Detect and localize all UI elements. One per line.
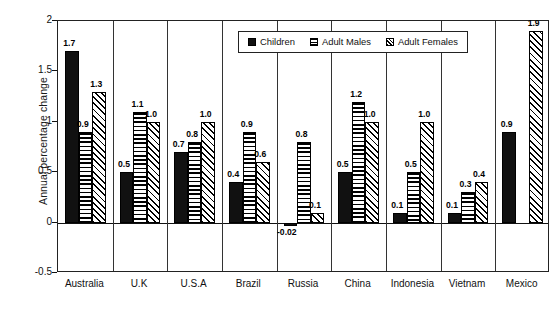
category-divider [386, 21, 387, 271]
y-axis-tick-mark [52, 20, 57, 21]
bar-children [284, 223, 298, 227]
y-axis-tick-label: 0.5 [26, 166, 52, 176]
bar-females [92, 92, 106, 223]
bar-females [475, 182, 489, 222]
bar-males [407, 172, 421, 222]
bar-children [120, 172, 134, 222]
bar-value-label: 0.5 [118, 160, 130, 169]
x-axis-category-label: China [330, 278, 385, 289]
category-divider [495, 21, 496, 271]
zero-baseline [58, 223, 548, 224]
category-divider [441, 21, 442, 271]
bar-males [133, 112, 147, 223]
y-axis-tick-mark [52, 121, 57, 122]
bar-males [243, 132, 257, 223]
bar-value-label: 0.5 [337, 160, 349, 169]
x-axis-category-label: U.S.A [166, 278, 221, 289]
bar-females [365, 122, 379, 223]
bar-value-label: 0.9 [241, 120, 253, 129]
legend-label-adult-females: Adult Females [398, 36, 458, 47]
bar-females [147, 122, 161, 223]
bar-value-label: 0.9 [77, 120, 89, 129]
bar-chart: Annual percentage change 21.510.50-0.5 C… [0, 0, 557, 313]
y-axis-tick-label: 1 [26, 116, 52, 126]
bar-value-label: 1.2 [350, 90, 362, 99]
plot-area [57, 20, 549, 272]
bar-value-label: 1.9 [528, 19, 540, 28]
legend-swatch-children-icon [248, 38, 256, 46]
bar-value-label: 0.1 [446, 201, 458, 210]
y-axis-tick-label: 2 [26, 15, 52, 25]
bar-value-label: -0.02 [277, 228, 297, 237]
bar-females [529, 31, 543, 223]
y-axis-tick-labels: 21.510.50-0.5 [22, 0, 52, 313]
bar-value-label: 0.7 [173, 140, 185, 149]
bar-value-label: 0.8 [296, 130, 308, 139]
bar-children [502, 132, 516, 223]
bar-value-label: 1.0 [145, 110, 157, 119]
bar-value-label: 1.1 [132, 100, 144, 109]
category-divider [331, 21, 332, 271]
x-axis-category-label: Australia [57, 278, 112, 289]
legend-label-adult-males: Adult Males [322, 36, 371, 47]
legend-item-children: Children [248, 36, 295, 47]
bar-value-label: 1.0 [418, 110, 430, 119]
bar-value-label: 0.1 [309, 201, 321, 210]
bar-children [338, 172, 352, 222]
bar-children [174, 152, 188, 223]
legend-swatch-adult-females-icon [386, 38, 394, 46]
bar-value-label: 0.6 [254, 150, 266, 159]
x-axis-category-label: Russia [276, 278, 331, 289]
x-axis-category-label: U.K [112, 278, 167, 289]
chart-legend: Children Adult Males Adult Females [238, 31, 468, 53]
x-axis-category-label: Brazil [221, 278, 276, 289]
bar-children [393, 213, 407, 223]
bar-males [461, 192, 475, 222]
bar-value-label: 1.7 [63, 39, 75, 48]
legend-item-adult-males: Adult Males [310, 36, 371, 47]
bar-children [229, 182, 243, 222]
x-axis-category-label: Vietnam [440, 278, 495, 289]
bar-males [188, 142, 202, 223]
y-axis-tick-label: 0 [26, 217, 52, 227]
bar-value-label: 1.3 [90, 80, 102, 89]
bar-value-label: 0.4 [473, 170, 485, 179]
bar-value-label: 0.5 [405, 160, 417, 169]
bar-children [448, 213, 462, 223]
category-divider [167, 21, 168, 271]
bar-males [297, 142, 311, 223]
y-axis-tick-label: -0.5 [26, 267, 52, 277]
y-axis-tick-mark [52, 222, 57, 223]
category-divider [113, 21, 114, 271]
bar-value-label: 0.4 [227, 170, 239, 179]
bar-females [420, 122, 434, 223]
legend-label-children: Children [260, 36, 295, 47]
bar-males [79, 132, 93, 223]
y-axis-tick-mark [52, 272, 57, 273]
bar-children [65, 51, 79, 222]
bar-females [256, 162, 270, 222]
legend-swatch-adult-males-icon [310, 38, 318, 46]
bar-value-label: 0.9 [501, 120, 513, 129]
y-axis-tick-mark [52, 171, 57, 172]
category-divider [222, 21, 223, 271]
bar-value-label: 0.8 [186, 130, 198, 139]
y-axis-tick-label: 1.5 [26, 65, 52, 75]
bar-value-label: 1.0 [200, 110, 212, 119]
x-axis-category-label: Mexico [494, 278, 549, 289]
bar-males [352, 102, 366, 223]
y-axis-tick-mark [52, 70, 57, 71]
bar-females [201, 122, 215, 223]
bar-females [311, 213, 325, 223]
x-axis-category-label: Indonesia [385, 278, 440, 289]
bar-value-label: 1.0 [364, 110, 376, 119]
bar-value-label: 0.1 [391, 201, 403, 210]
bar-value-label: 0.3 [460, 180, 472, 189]
legend-item-adult-females: Adult Females [386, 36, 458, 47]
